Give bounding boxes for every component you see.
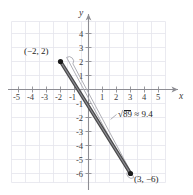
y-tick-label--3: -3 (76, 128, 83, 137)
distance-annotation: √89 ≈ 9.4 (117, 110, 153, 119)
y-tick-label-1: 1 (79, 72, 83, 81)
y-tick-label-2: 2 (79, 58, 83, 67)
x-tick-label--3: -3 (41, 93, 48, 102)
point-label-a: (−2, 2) (24, 47, 49, 56)
y-tick-label-4: 4 (79, 30, 83, 39)
radicand-value: 89 (123, 109, 132, 119)
y-tick-label--5: -5 (76, 156, 83, 165)
distance-value: 9.4 (141, 109, 152, 119)
radical-sign-group: √89 (117, 109, 132, 119)
approx-equals-sign: ≈ (134, 109, 139, 119)
y-tick-label--2: -2 (76, 114, 83, 123)
point-marker-b (128, 171, 133, 176)
x-tick-label-2: 2 (114, 93, 118, 102)
callout-leader-line (111, 115, 117, 120)
axis-arrowheads (86, 14, 178, 92)
x-tick-label-5: 5 (156, 93, 160, 102)
point-marker-a (58, 59, 63, 64)
x-tick-label-1: 1 (100, 93, 104, 102)
x-tick-label-3: 3 (128, 93, 132, 102)
y-axis-label: y (79, 9, 83, 19)
x-tick-label-4: 4 (142, 93, 146, 102)
y-tick-label--4: -4 (76, 142, 83, 151)
radical-vinculum (124, 110, 131, 111)
y-tick-label-3: 3 (79, 44, 83, 53)
x-tick-label--5: -5 (13, 93, 20, 102)
y-tick-label--1: -1 (76, 100, 83, 109)
coordinate-plane-figure: -5 -4 -3 -2 -1 1 2 3 4 5 1 2 3 4 -1 -2 -… (0, 0, 193, 195)
point-label-b: (3, −6) (134, 175, 159, 184)
x-tick-label--2: -2 (55, 93, 62, 102)
y-tick-label--6: -6 (76, 170, 83, 179)
x-axis-label: x (179, 92, 183, 102)
x-tick-label--4: -4 (27, 93, 34, 102)
